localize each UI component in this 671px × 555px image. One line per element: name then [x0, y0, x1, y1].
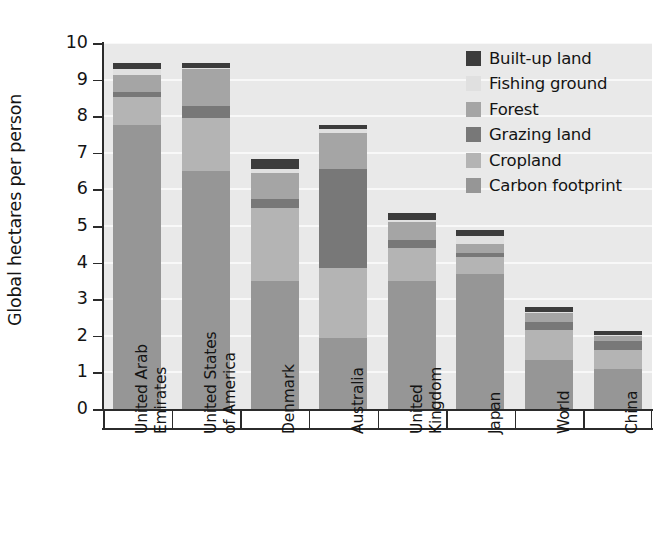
bar-segment-cropland [388, 248, 436, 281]
y-axis-tick-label: 0 [44, 398, 88, 418]
x-axis-separator [172, 410, 174, 429]
y-axis-tick-label: 3 [44, 288, 88, 308]
bar-segment-forest [251, 173, 299, 199]
bar-segment-cropland [319, 268, 367, 338]
category-label: World [555, 391, 573, 434]
legend-label: Built-up land [489, 49, 592, 68]
bar-segment-built-up-land [319, 125, 367, 129]
gridline [103, 43, 652, 44]
category-label: of America [221, 352, 239, 434]
bar-segment-fishing-ground [182, 68, 230, 70]
bar-segment-built-up-land [525, 307, 573, 312]
x-axis-separator [240, 410, 242, 429]
category-label: United States [202, 332, 220, 434]
y-axis-tick-label: 1 [44, 361, 88, 381]
bar-segment-grazing-land [113, 92, 161, 97]
bar-segment-cropland [594, 350, 642, 368]
y-axis-line [102, 42, 104, 410]
bar-segment-fishing-ground [525, 312, 573, 313]
category-label: United [408, 384, 426, 434]
bar-japan[interactable] [456, 230, 504, 409]
y-axis-title: Global hectares per person [0, 0, 30, 420]
y-axis-tick-label: 9 [44, 69, 88, 89]
bar-segment-built-up-land [251, 159, 299, 169]
y-axis-tick-label: 5 [44, 215, 88, 235]
bar-segment-forest [456, 244, 504, 253]
bar-segment-built-up-land [182, 63, 230, 67]
legend-swatch-icon [466, 102, 481, 117]
legend-swatch-icon [466, 178, 481, 193]
category-label: Emirates [152, 367, 170, 434]
bar-segment-built-up-land [456, 230, 504, 236]
category-label: Japan [486, 392, 504, 434]
y-axis-tick-label: 10 [44, 32, 88, 52]
bar-segment-cropland [182, 118, 230, 171]
y-axis-tick-label: 7 [44, 142, 88, 162]
bar-segment-forest [182, 69, 230, 106]
bar-segment-fishing-ground [113, 69, 161, 76]
legend-item[interactable]: Fishing ground [466, 74, 622, 94]
bar-segment-built-up-land [388, 213, 436, 220]
x-axis-separator [309, 410, 311, 429]
bar-segment-fishing-ground [388, 220, 436, 222]
legend-label: Fishing ground [489, 74, 607, 93]
bar-segment-forest [594, 336, 642, 341]
bar-segment-grazing-land [251, 199, 299, 208]
bar-segment-grazing-land [525, 322, 573, 331]
legend-item[interactable]: Grazing land [466, 125, 622, 145]
bar-segment-grazing-land [594, 341, 642, 351]
chart-legend: Built-up landFishing groundForestGrazing… [466, 48, 622, 196]
legend-item[interactable]: Carbon footprint [466, 176, 622, 196]
bar-segment-fishing-ground [251, 169, 299, 173]
legend-item[interactable]: Forest [466, 99, 622, 119]
legend-label: Carbon footprint [489, 176, 622, 195]
bar-segment-carbon-footprint [456, 274, 504, 409]
bar-segment-forest [113, 75, 161, 91]
x-axis-separator [378, 410, 380, 429]
bar-segment-cropland [251, 208, 299, 281]
legend-swatch-icon [466, 127, 481, 142]
bar-segment-fishing-ground [594, 335, 642, 336]
x-axis-separator [515, 410, 517, 429]
x-axis-separator [446, 410, 448, 429]
bar-segment-fishing-ground [319, 129, 367, 133]
bar-segment-grazing-land [388, 240, 436, 248]
bar-segment-grazing-land [456, 253, 504, 257]
y-axis-tick-label: 4 [44, 252, 88, 272]
legend-swatch-icon [466, 153, 481, 168]
bar-segment-forest [319, 133, 367, 170]
bar-segment-cropland [456, 257, 504, 273]
legend-swatch-icon [466, 51, 481, 66]
legend-item[interactable]: Built-up land [466, 48, 622, 68]
stacked-bar-chart: Global hectares per person 012345678910 … [0, 0, 671, 555]
y-axis-tick-label: 8 [44, 105, 88, 125]
x-axis-separator [583, 410, 585, 429]
bar-segment-grazing-land [319, 169, 367, 268]
category-label: China [623, 391, 641, 434]
legend-label: Grazing land [489, 125, 591, 144]
legend-label: Cropland [489, 151, 562, 170]
legend-label: Forest [489, 100, 538, 119]
legend-item[interactable]: Cropland [466, 150, 622, 170]
bar-segment-forest [525, 313, 573, 321]
category-label: Kingdom [427, 367, 445, 434]
category-label: United Arab [133, 344, 151, 434]
bar-segment-grazing-land [182, 106, 230, 118]
bar-segment-forest [388, 222, 436, 240]
y-axis-tick-label: 6 [44, 178, 88, 198]
category-label: Denmark [280, 364, 298, 434]
bar-segment-built-up-land [113, 63, 161, 68]
legend-swatch-icon [466, 76, 481, 91]
x-axis-separator [651, 410, 653, 429]
y-axis-tick-label: 2 [44, 325, 88, 345]
bar-segment-fishing-ground [456, 236, 504, 244]
category-label: Australia [349, 367, 367, 434]
bar-segment-built-up-land [594, 331, 642, 335]
x-axis-separator [103, 410, 105, 429]
bar-segment-cropland [113, 97, 161, 126]
bar-segment-cropland [525, 330, 573, 359]
